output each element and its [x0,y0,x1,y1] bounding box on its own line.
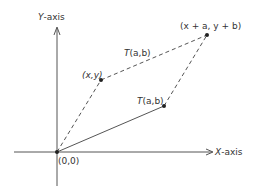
translated-label: (x + a, y + b) [180,21,241,31]
edge-ab-to-translated [164,35,207,106]
ab-point-label: T(a,b) [137,96,164,106]
edge-origin-to-ab [57,106,164,152]
point-origin [55,150,59,154]
point-translated [205,33,209,37]
edge-xy-to-translated [101,35,207,80]
origin-label: (0,0) [58,156,79,166]
y-axis-label: Y-axis [38,12,65,22]
x-axis-label: X-axis [214,147,243,157]
parallelogram-diagram: Y-axis X-axis (0,0) (x,y) (x + a, y + b)… [0,0,254,191]
edge-origin-to-xy [57,80,101,152]
xy-label: (x,y) [82,70,103,80]
top-edge-label: T(a,b) [124,48,151,58]
